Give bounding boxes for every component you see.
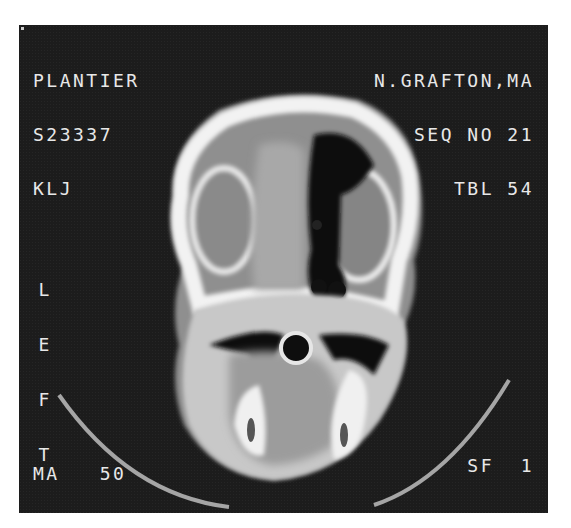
air-cell [311,279,327,295]
overlay-top-right: N.GRAFTON,MA SEQ NO 21 TBL 54 [374,36,534,234]
study-id: S23337 [33,126,140,144]
table-position: TBL 54 [374,180,534,198]
sf-value: SF 1 [401,457,534,475]
cf-value: CF HEAD [401,511,534,513]
overlay-bottom-left: MA 50 SEC 8 DIA 20.3 TILT .7 [33,429,140,513]
canal-right [340,423,348,447]
overlay-top-left: PLANTIER S23337 KLJ [33,36,140,234]
side-letter: E [37,336,51,355]
ma-value: MA 50 [33,465,140,483]
side-letter: L [37,281,51,300]
ct-scan-image: PLANTIER S23337 KLJ N.GRAFTON,MA SEQ NO … [19,25,548,513]
overlay-bottom-right: SF 1 CF HEAD CENT 249 WIND 1018 LEV .794… [401,421,534,513]
side-letter: F [37,391,51,410]
air-cell [312,220,322,230]
opacified-sinus [251,142,304,290]
canal-left [247,418,255,442]
patient-name: PLANTIER [33,72,140,90]
operator-initials: KLJ [33,180,140,198]
sequence-number: SEQ NO 21 [374,126,534,144]
orbit-left [192,168,256,272]
location: N.GRAFTON,MA [374,72,534,90]
ring-structure [281,333,311,363]
